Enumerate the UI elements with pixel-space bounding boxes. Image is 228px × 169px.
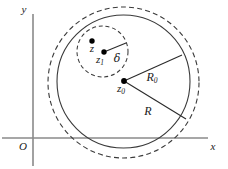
y-axis-label: y xyxy=(21,3,27,15)
point-z0-subscript: 0 xyxy=(121,87,125,96)
figure-canvas: y x O z z1 z0 δ R0 R xyxy=(0,0,228,169)
point-z1-label: z1 xyxy=(95,53,104,67)
origin-label: O xyxy=(19,140,27,152)
point-z1-subscript: 1 xyxy=(100,58,104,67)
x-axis-label: x xyxy=(210,140,216,152)
complex-plane-figure: y x O z z1 z0 δ R0 R xyxy=(0,0,228,169)
R0-subscript: 0 xyxy=(154,76,158,85)
R-radius-line xyxy=(124,81,186,119)
point-z0-dot xyxy=(121,78,127,84)
point-z0-label: z0 xyxy=(116,82,125,96)
delta-label: δ xyxy=(114,52,121,65)
point-z-label: z xyxy=(89,42,95,54)
point-z1-dot xyxy=(101,49,106,54)
R0-label: R0 xyxy=(145,70,157,85)
R-label: R xyxy=(143,104,152,118)
delta-radius-line xyxy=(104,43,126,52)
